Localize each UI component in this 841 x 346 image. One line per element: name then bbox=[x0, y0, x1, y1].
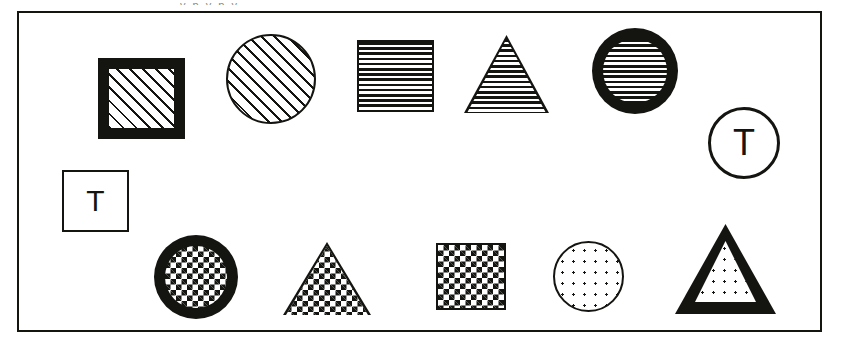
shape-square-diagonal-hatch-thick[interactable] bbox=[98, 58, 185, 139]
shape-circle-dots-thin[interactable] bbox=[553, 241, 624, 312]
shape-label-t-circle: T bbox=[711, 110, 777, 176]
circle-horizontal-lines-fill bbox=[603, 39, 667, 103]
shape-triangle-checkerboard[interactable] bbox=[283, 242, 371, 315]
shape-square-horizontal-lines-thin[interactable] bbox=[357, 40, 434, 112]
caption-remnant-text: y p y p y bbox=[180, 0, 580, 5]
shape-triangle-horizontal-lines[interactable] bbox=[464, 35, 549, 113]
circle-checkerboard-fill bbox=[165, 246, 227, 308]
triangle-checkerboard-fill bbox=[286, 246, 368, 315]
figure-frame: T T bbox=[17, 11, 822, 332]
shape-circle-horizontal-lines-thick[interactable] bbox=[592, 28, 678, 114]
shape-label-t-square: T bbox=[64, 172, 127, 230]
shape-square-blank-labeled-t[interactable]: T bbox=[62, 170, 129, 232]
triangle-dots-fill bbox=[695, 241, 756, 302]
shape-circle-diagonal-hatch-thin[interactable] bbox=[226, 34, 316, 124]
shape-square-checkerboard-thin[interactable] bbox=[436, 243, 506, 310]
triangle-horizontal-lines-fill bbox=[467, 39, 546, 113]
shape-triangle-dots-thick[interactable] bbox=[675, 224, 776, 314]
shape-circle-checkerboard-thick[interactable] bbox=[154, 235, 238, 319]
figure-root: y p y p y T T bbox=[0, 0, 841, 346]
shape-circle-blank-labeled-t[interactable]: T bbox=[708, 107, 780, 179]
